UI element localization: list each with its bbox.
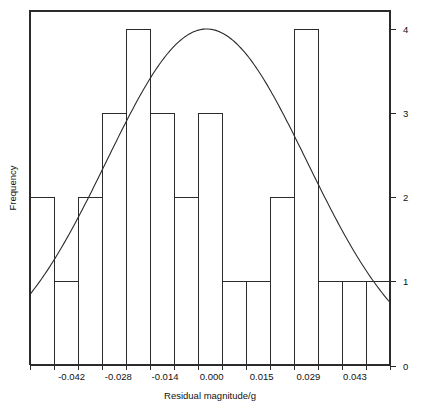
y-tick-label: 4 bbox=[403, 24, 408, 35]
x-tick-label: 0.043 bbox=[343, 371, 367, 382]
histogram-bar bbox=[270, 198, 294, 367]
y-axis-title: Frequency bbox=[7, 165, 18, 210]
histogram-bar bbox=[174, 198, 198, 367]
histogram-bar bbox=[126, 29, 150, 366]
histogram-bar bbox=[366, 282, 390, 366]
histogram-chart: -0.042-0.028-0.0140.0000.0150.0290.043 0… bbox=[0, 0, 421, 413]
x-tick-label: -0.014 bbox=[152, 371, 179, 382]
frame-rect bbox=[30, 11, 390, 365]
histogram-bar bbox=[222, 282, 246, 366]
x-tick-label: -0.042 bbox=[58, 371, 85, 382]
histogram-bar bbox=[198, 113, 222, 366]
histogram-bar bbox=[30, 198, 54, 367]
x-axis-tick-labels: -0.042-0.028-0.0140.0000.0150.0290.043 bbox=[58, 371, 367, 382]
histogram-bar bbox=[102, 113, 126, 366]
x-tick-label: 0.015 bbox=[250, 371, 274, 382]
histogram-bar bbox=[294, 29, 318, 366]
histogram-bar bbox=[54, 282, 78, 366]
histogram-bar bbox=[246, 282, 270, 366]
histogram-bar bbox=[342, 282, 366, 366]
normal-fit-curve bbox=[30, 29, 390, 302]
x-axis-ticks bbox=[30, 365, 390, 370]
y-axis-ticks bbox=[390, 29, 396, 366]
x-tick-label: 0.029 bbox=[296, 371, 320, 382]
y-axis-tick-labels: 01234 bbox=[403, 24, 408, 372]
y-tick-label: 3 bbox=[403, 108, 408, 119]
figure-container: -0.042-0.028-0.0140.0000.0150.0290.043 0… bbox=[0, 0, 421, 413]
histogram-bar bbox=[78, 198, 102, 367]
y-tick-label: 1 bbox=[403, 276, 408, 287]
y-tick-label: 0 bbox=[403, 361, 408, 372]
histogram-bars bbox=[30, 29, 390, 366]
histogram-bar bbox=[318, 282, 342, 366]
x-tick-label: -0.028 bbox=[105, 371, 132, 382]
x-axis-title: Residual magnitude/g bbox=[164, 390, 256, 401]
fit-curve-path bbox=[30, 29, 390, 302]
x-tick-label: 0.000 bbox=[200, 371, 224, 382]
histogram-bar bbox=[150, 113, 174, 366]
plot-frame bbox=[30, 11, 390, 365]
y-tick-label: 2 bbox=[403, 192, 408, 203]
